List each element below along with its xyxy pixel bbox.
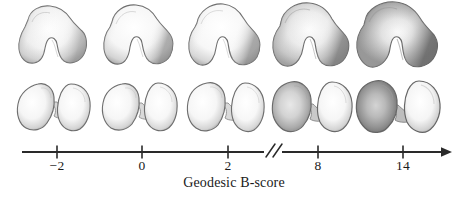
shape-row-axial xyxy=(0,72,468,144)
axis-arrowhead xyxy=(441,147,452,157)
femur-anterior-score-0 xyxy=(94,0,186,72)
tick-label-0: 0 xyxy=(122,158,162,173)
femur-axial-score-8 xyxy=(266,72,358,144)
femur-anterior-score-14 xyxy=(352,0,444,72)
shape-row-anterior xyxy=(0,0,468,72)
femur-axial-score-0 xyxy=(94,72,186,144)
axis-title: Geodesic B-score xyxy=(0,174,468,192)
femur-anterior-score-2 xyxy=(180,0,272,72)
femur-axial-score-minus2 xyxy=(8,72,100,144)
femur-axial-score-2 xyxy=(180,72,272,144)
tick-label-minus2: −2 xyxy=(37,158,77,173)
tick-label-8: 8 xyxy=(298,158,338,173)
bscore-axis: −2 0 2 8 14 Geodesic B-score xyxy=(0,140,468,197)
axis-break-icon xyxy=(264,144,282,157)
geodesic-bscore-figure: −2 0 2 8 14 Geodesic B-score xyxy=(0,0,468,197)
tick-label-14: 14 xyxy=(383,158,423,173)
femur-axial-score-14 xyxy=(352,72,444,144)
femur-anterior-score-minus2 xyxy=(8,0,100,72)
tick-label-2: 2 xyxy=(208,158,248,173)
femur-anterior-score-8 xyxy=(266,0,358,72)
